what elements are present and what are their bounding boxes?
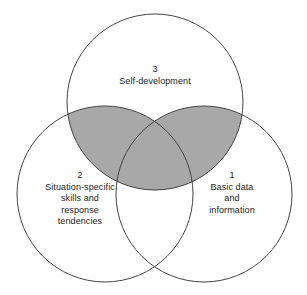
circle-label-right: 1 Basic data and information <box>209 170 255 216</box>
circle-text-right-line1: Basic data <box>209 182 255 194</box>
circle-number-left: 2 <box>45 170 115 182</box>
circle-label-left: 2 Situation-specific skills and response… <box>45 170 115 228</box>
circle-text-right-line3: information <box>209 205 255 217</box>
circle-text-left-line3: response <box>45 205 115 217</box>
circle-number-top: 3 <box>119 64 190 76</box>
circle-text-top-line1: Self-development <box>119 76 190 88</box>
circle-number-right: 1 <box>209 170 255 182</box>
venn-diagram-canvas <box>0 0 307 295</box>
circle-text-left-line1: Situation-specific <box>45 182 115 194</box>
venn-diagram-figure: 3 Self-development 2 Situation-specific … <box>0 0 307 295</box>
circle-text-right-line2: and <box>209 193 255 205</box>
circle-text-left-line4: tendencies <box>45 216 115 228</box>
circle-text-left-line2: skills and <box>45 193 115 205</box>
circle-label-top: 3 Self-development <box>119 64 190 87</box>
